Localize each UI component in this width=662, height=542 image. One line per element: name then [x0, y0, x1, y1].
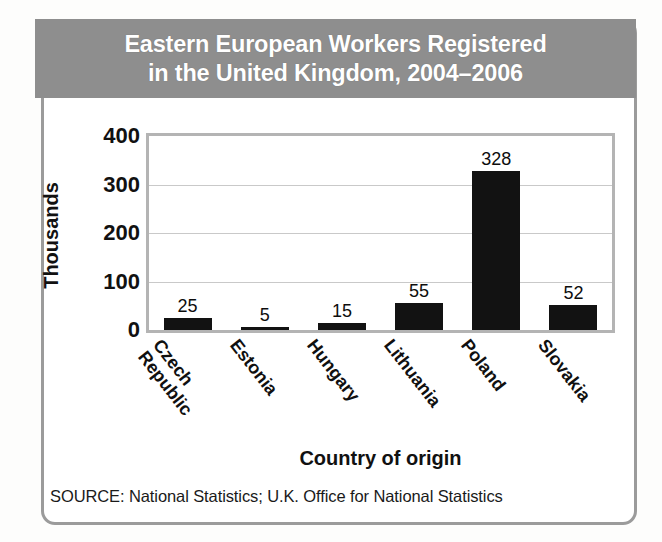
x-axis-label-poland: Poland — [457, 336, 509, 395]
bar-value-label-hungary: 15 — [306, 301, 378, 322]
bar-estonia — [241, 327, 289, 330]
bar-poland — [472, 171, 520, 330]
bar-value-label-czech-republic: 25 — [152, 296, 224, 317]
x-axis-label-czech-republic: Czech Republic — [134, 336, 210, 419]
x-axis-label-estonia: Estonia — [226, 336, 281, 399]
x-axis-title: Country of origin — [146, 447, 615, 470]
y-axis-tick-100: 100 — [84, 271, 140, 293]
bar-value-label-poland: 328 — [460, 149, 532, 170]
chart-figure: Eastern European Workers Registered in t… — [0, 0, 662, 542]
bar-lithuania — [395, 303, 443, 330]
x-axis-label-slovakia: Slovakia — [535, 336, 595, 405]
bar-value-label-lithuania: 55 — [383, 281, 455, 302]
y-axis-tick-200: 200 — [84, 222, 140, 244]
page-title: Eastern European Workers Registered in t… — [114, 30, 556, 87]
y-axis-tick-labels: 0100200300400 — [80, 133, 140, 333]
y-axis-tick-400: 400 — [84, 125, 140, 147]
y-axis-tick-0: 0 — [84, 319, 140, 341]
y-axis-title: Thousands — [36, 150, 66, 320]
bar-slovakia — [549, 305, 597, 330]
bar-hungary — [318, 323, 366, 330]
x-axis-label-hungary: Hungary — [303, 336, 363, 405]
x-axis-label-lithuania: Lithuania — [380, 336, 444, 411]
y-axis-tick-300: 300 — [84, 174, 140, 196]
x-axis-category-labels: Czech RepublicEstoniaHungaryLithuaniaPol… — [146, 336, 615, 444]
bar-value-label-slovakia: 52 — [537, 283, 609, 304]
bar-value-label-estonia: 5 — [229, 305, 301, 326]
chart-title-line-1: Eastern European Workers Registered — [124, 31, 546, 57]
chart-title-line-2: in the United Kingdom, 2004–2006 — [148, 60, 523, 86]
chart-title-banner: Eastern European Workers Registered in t… — [35, 19, 636, 98]
source-note: SOURCE: National Statistics; U.K. Office… — [50, 487, 620, 506]
y-axis-title-text: Thousands — [40, 182, 63, 289]
bar-czech-republic — [164, 318, 212, 330]
